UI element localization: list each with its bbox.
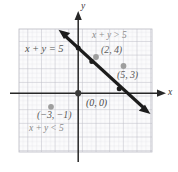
region-above-label: x + y > 5 bbox=[92, 31, 127, 41]
point-label-0-0: (0, 0) bbox=[86, 98, 107, 108]
point-0-0 bbox=[75, 90, 81, 96]
region-below-label: x + y < 5 bbox=[29, 124, 64, 134]
coordinate-plane-svg bbox=[0, 0, 178, 172]
y-axis-label: y bbox=[81, 2, 85, 12]
graph-figure: x + y = 5 x + y > 5 x + y < 5 (2, 4) (5,… bbox=[0, 0, 178, 172]
line-equation-label: x + y = 5 bbox=[25, 44, 63, 55]
point-label-5-3: (5, 3) bbox=[117, 70, 138, 80]
x-axis-label: x bbox=[168, 88, 172, 98]
point-label-neg3-neg1: (−3, −1) bbox=[37, 110, 71, 120]
point-label-2-4: (2, 4) bbox=[101, 45, 122, 55]
point-2-4 bbox=[93, 54, 99, 60]
